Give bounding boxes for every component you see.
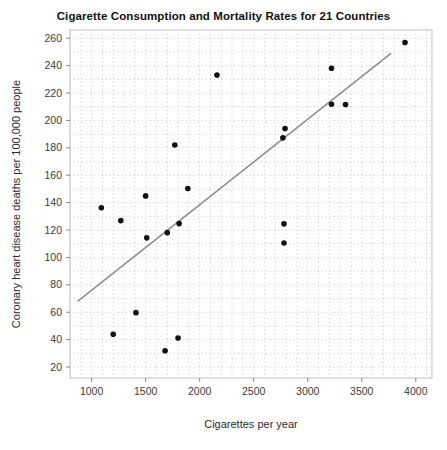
y-tick-label: 60 <box>50 306 62 318</box>
y-tick-label: 220 <box>44 87 62 99</box>
chart-title: Cigarette Consumption and Mortality Rate… <box>0 10 447 22</box>
data-point <box>162 348 168 354</box>
data-point <box>118 218 124 224</box>
y-tick-label: 200 <box>44 114 62 126</box>
x-tick-label: 1500 <box>134 385 158 397</box>
data-point <box>176 221 182 227</box>
plot-area: 1000150020002500300035004000204060801001… <box>0 0 447 450</box>
scatter-chart: Cigarette Consumption and Mortality Rate… <box>0 0 447 450</box>
y-tick-label: 160 <box>44 169 62 181</box>
trend-line <box>78 53 391 301</box>
y-tick-label: 20 <box>50 361 62 373</box>
y-tick-label: 240 <box>44 59 62 71</box>
data-point <box>99 205 105 211</box>
y-tick-label: 120 <box>44 224 62 236</box>
y-axis-label: Coronary heart disease deaths per 100,00… <box>10 30 24 378</box>
y-tick-label: 180 <box>44 141 62 153</box>
data-point <box>144 235 150 241</box>
x-axis-label: Cigarettes per year <box>70 418 432 430</box>
x-tick-label: 2500 <box>242 385 266 397</box>
y-tick-label: 40 <box>50 333 62 345</box>
x-tick-label: 4000 <box>404 385 428 397</box>
y-tick-label: 80 <box>50 278 62 290</box>
data-point <box>281 240 287 246</box>
data-point <box>329 101 335 107</box>
data-point <box>110 331 116 337</box>
x-tick-label: 3500 <box>350 385 374 397</box>
x-tick-label: 3000 <box>296 385 320 397</box>
x-tick-label: 1000 <box>80 385 104 397</box>
data-point <box>172 142 178 148</box>
data-point <box>133 310 139 316</box>
data-point <box>185 186 191 192</box>
data-point <box>280 135 286 141</box>
y-tick-label: 100 <box>44 251 62 263</box>
data-point <box>164 230 170 236</box>
data-point <box>329 65 335 71</box>
data-point <box>214 72 220 78</box>
y-tick-label: 260 <box>44 32 62 44</box>
data-point <box>175 335 181 341</box>
data-point <box>282 126 288 132</box>
y-tick-label: 140 <box>44 196 62 208</box>
data-point <box>143 193 149 199</box>
data-point <box>281 221 287 227</box>
x-tick-label: 2000 <box>188 385 212 397</box>
data-point <box>343 102 349 108</box>
data-point <box>402 40 408 46</box>
